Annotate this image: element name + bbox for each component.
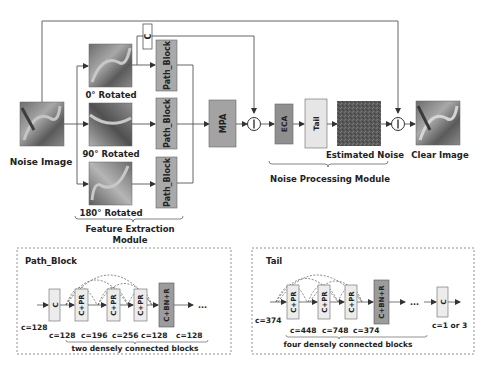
svg-text:c=128: c=128 [49,331,75,340]
svg-text:Path_Block: Path_Block [163,40,172,90]
tail-detail-panel: Tail ... C+PR C+PR C+PR C+BN+R [252,248,474,354]
architecture-diagram: Noise Image 0° Rotated 90° Rotated 180° … [0,0,490,371]
mpa-block: MPA [209,100,236,147]
svg-text:c=374: c=374 [353,326,379,335]
svg-text:c=256: c=256 [112,331,138,340]
rotated-0-thumbnail [89,44,132,87]
noise-module-label: Noise Processing Module [270,174,390,184]
tail-caption: four densely connected blocks [284,340,413,349]
noise-image-label: Noise Image [10,157,73,167]
pb-cbnr-block: C+BN+R [159,283,174,327]
svg-text:C+PR: C+PR [78,294,86,316]
svg-text:C+PR: C+PR [110,294,118,316]
tail-cpr-block-3: C+PR [345,285,357,319]
svg-text:c=128: c=128 [141,331,167,340]
pb-cpr-block-2: C+PR [107,289,120,321]
eca-block: ECA [275,104,293,144]
svg-text:...: ... [198,301,207,310]
svg-text:C+PR: C+PR [137,294,145,316]
tail-cbnr-block: C+BN+R [374,280,389,324]
svg-text:Tail: Tail [312,116,321,130]
path-block-caption: two densely connected blocks [71,344,199,353]
svg-text:C: C [144,33,153,39]
clear-image-label: Clear Image [411,150,469,160]
svg-text:c=128: c=128 [21,323,47,332]
subtract-op-1 [248,118,261,131]
svg-text:Path_Block: Path_Block [163,157,172,207]
svg-text:c=374: c=374 [255,316,281,325]
rotated-90-label: 90° Rotated [82,149,139,159]
feature-module-label-line2: Module [112,235,147,245]
tail-conv-block: C [437,287,448,317]
path-block-detail-title: Path_Block [25,256,77,266]
feature-module-label-line1: Feature Extraction [85,224,174,234]
svg-text:C: C [52,302,60,307]
svg-text:C+PR: C+PR [290,291,298,313]
path-block-1: Path_Block [156,40,177,91]
svg-text:C+PR: C+PR [321,291,329,313]
estimated-noise-label: Estimated Noise [326,150,404,160]
rotated-180-label: 180° Rotated [79,208,142,218]
svg-text:c=448: c=448 [290,326,316,335]
svg-text:C+PR: C+PR [348,291,356,313]
svg-text:ECA: ECA [280,116,289,133]
rotated-90-thumbnail [89,103,132,146]
path-block-3: Path_Block [156,157,177,208]
rotated-180-thumbnail [89,162,132,205]
pb-cpr-block-3: C+PR [134,289,147,321]
svg-text:MPA: MPA [219,113,228,133]
svg-text:C+BN+R: C+BN+R [163,288,171,322]
svg-text:c=748: c=748 [322,326,348,335]
svg-text:c=1 or 3: c=1 or 3 [432,321,467,330]
pb-cpr-block-1: C+PR [75,289,88,321]
path-block-2: Path_Block [156,98,177,149]
svg-text:c=128: c=128 [176,331,202,340]
clear-image-thumbnail [416,101,460,145]
rotated-0-label: 0° Rotated [85,90,136,100]
tail-cpr-block-1: C+PR [287,285,299,319]
svg-text:C+BN+R: C+BN+R [378,285,386,319]
noise-image-thumbnail [20,102,64,146]
noise-module-brace [269,161,388,167]
svg-text:...: ... [410,298,419,307]
tail-detail-title: Tail [266,256,282,266]
subtract-op-2 [392,118,405,131]
svg-text:Path_Block: Path_Block [163,98,172,148]
path-block-detail-panel: Path_Block ... C C+PR C+PR C+PR [17,248,231,354]
svg-text:C: C [440,299,448,304]
tail-block: Tail [305,99,327,148]
svg-text:c=196: c=196 [81,331,107,340]
concat-block: C [143,24,153,49]
tail-cpr-block-2: C+PR [318,285,330,319]
estimated-noise-image [337,101,381,146]
pb-conv-block: C [49,289,60,321]
